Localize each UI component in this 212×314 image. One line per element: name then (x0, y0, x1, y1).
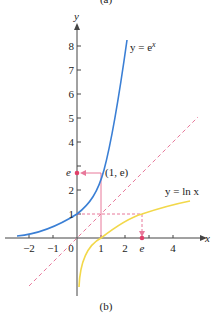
identity-line (29, 117, 198, 286)
ln-label: y = ln x (165, 185, 200, 197)
svg-text:6: 6 (69, 88, 75, 100)
x-tick-labels: −2−1 01 24 (23, 242, 176, 254)
svg-text:4: 4 (170, 242, 176, 254)
svg-text:7: 7 (69, 64, 75, 76)
svg-text:1: 1 (69, 208, 75, 220)
svg-text:2: 2 (122, 242, 128, 254)
point-e-x (140, 236, 145, 241)
graph-exp-ln: y x 12 45 678 e −2−1 01 24 e (1, e) y = … (0, 0, 212, 314)
point-e-y (75, 171, 80, 176)
svg-text:−2: −2 (23, 242, 35, 254)
x-axis-label: x (204, 232, 210, 244)
svg-text:8: 8 (69, 40, 75, 52)
e-y-label: e (66, 166, 71, 178)
arrow-left-icon (80, 170, 86, 176)
svg-text:2: 2 (69, 184, 75, 196)
caption-a: (a) (100, 0, 113, 6)
y-tick-labels: 12 45 678 (69, 40, 75, 220)
exp-label: y = ex (130, 40, 156, 53)
svg-text:5: 5 (69, 112, 75, 124)
y-arrow-icon (74, 23, 80, 30)
svg-text:0: 0 (68, 242, 74, 254)
svg-text:1: 1 (98, 242, 104, 254)
point-label: (1, e) (105, 166, 129, 179)
svg-text:−1: −1 (47, 242, 59, 254)
caption-b: (b) (100, 300, 113, 313)
y-axis-label: y (73, 10, 79, 22)
y-ticks (77, 46, 81, 214)
svg-text:4: 4 (69, 136, 75, 148)
e-x-label: e (140, 242, 145, 254)
